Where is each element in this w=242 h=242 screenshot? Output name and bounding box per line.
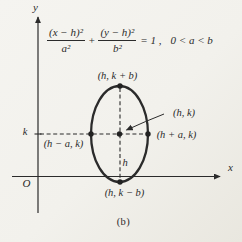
ellipse-equation: (x − h)² a² + (y − h)² b² = 1 , 0 < a < … — [47, 26, 213, 54]
top-vertex-dot — [117, 83, 122, 88]
right-vertex-label: (h + a, k) — [157, 130, 197, 141]
origin-label: O — [23, 177, 31, 188]
x-axis-label: x — [228, 161, 233, 172]
left-vertex-label: (h − a, k) — [44, 138, 84, 149]
bottom-vertex-label: (h, k − b) — [105, 187, 145, 198]
x-term-numerator: (x − h)² — [47, 26, 85, 41]
equals-one: = 1 , — [140, 34, 161, 47]
x-term-denominator: a² — [62, 41, 71, 55]
plus-sign: + — [88, 34, 95, 47]
constraint: 0 < a < b — [171, 34, 213, 47]
y-axis-label: y — [33, 1, 38, 12]
center-dot — [117, 131, 122, 136]
y-term-numerator: (y − h)² — [98, 26, 136, 41]
ellipse-figure: (x − h)² a² + (y − h)² b² = 1 , 0 < a < … — [0, 0, 242, 242]
center-label: (h, k) — [173, 107, 195, 118]
left-vertex-dot — [88, 131, 93, 136]
y-term-denominator: b² — [113, 41, 122, 55]
k-tick-label: k — [23, 127, 28, 138]
right-vertex-dot — [145, 131, 150, 136]
h-tick-label: h — [122, 157, 127, 168]
top-vertex-label: (h, k + b) — [98, 71, 138, 82]
figure-caption: (b) — [117, 217, 131, 228]
bottom-vertex-dot — [117, 179, 122, 184]
y-term-fraction: (y − h)² b² — [98, 26, 136, 54]
x-term-fraction: (x − h)² a² — [47, 26, 85, 54]
